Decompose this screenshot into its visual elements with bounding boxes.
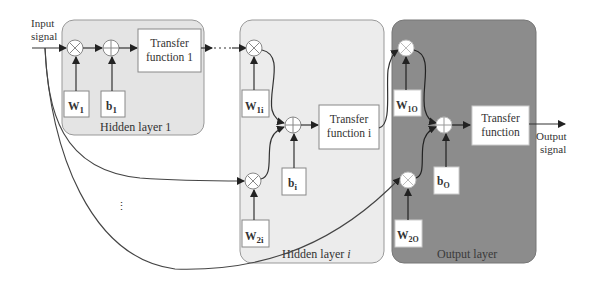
sum-node-o [436,117,452,133]
sum-node-1 [103,40,119,56]
transfer-function-1-line1: Transfer [150,37,189,49]
hidden-layer-1-title: Hidden layer 1 [100,120,171,134]
transfer-function-i-line2: function i [327,127,371,139]
input-label-line2: signal [31,30,57,42]
sum-node-i [285,117,301,133]
hidden-layer-i-title: Hidden layer i [282,247,351,261]
multiply-node-2i [245,173,261,189]
multiply-node-2o [400,172,416,188]
input-label-line1: Input [31,17,54,29]
neural-network-diagram: Input signal Transfer function 1 W1 b1 H… [0,0,593,281]
transfer-function-o-line1: Transfer [481,112,520,124]
transfer-function-1-line2: function 1 [146,51,193,63]
ellipsis: ⋮ [116,200,127,212]
output-label-line2: signal [540,143,566,155]
output-layer-title: Output layer [437,247,497,261]
transfer-function-o-line2: function [481,126,520,138]
multiply-node-1i [246,40,262,56]
multiply-node-1o [398,40,414,56]
output-label-line1: Output [536,130,567,142]
multiply-node-1 [67,40,83,56]
transfer-function-i-line1: Transfer [330,113,369,125]
